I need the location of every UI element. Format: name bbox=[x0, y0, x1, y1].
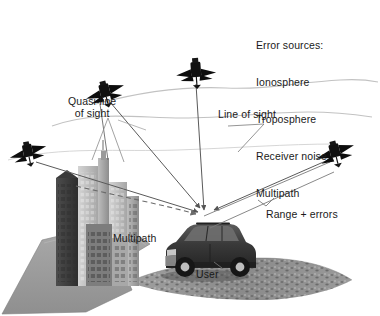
error-source-ionosphere: Ionosphere bbox=[256, 76, 327, 88]
range-plus-errors-label: Range + errors bbox=[266, 208, 338, 220]
satellite-left bbox=[7, 138, 50, 171]
error-sources-heading: Error sources: bbox=[256, 39, 327, 51]
satellite-top bbox=[175, 57, 217, 91]
error-source-receiver-noise: Receiver noise bbox=[256, 150, 327, 162]
user-label: User bbox=[196, 268, 219, 280]
quasi-line-of-sight-label: Quasi-line of sight bbox=[68, 95, 116, 120]
multipath-label: Multipath bbox=[113, 232, 157, 244]
line-of-sight-label: Line of sight bbox=[218, 108, 276, 120]
error-source-multipath: Multipath bbox=[256, 187, 327, 199]
gnss-error-sources-figure: Error sources: Ionosphere Troposphere Re… bbox=[0, 0, 380, 316]
